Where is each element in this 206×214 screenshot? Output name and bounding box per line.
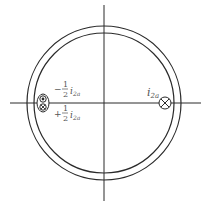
svg-text:1: 1 — [63, 80, 68, 89]
svg-text:−: − — [54, 84, 62, 94]
svg-text:1: 1 — [63, 104, 68, 113]
svg-text:i2a: i2a — [70, 86, 81, 97]
label-right-var: i2a — [147, 86, 159, 100]
svg-text:2: 2 — [63, 114, 68, 123]
diagram-canvas: i2a − 1 2 i2a + 1 2 i2a — [0, 0, 206, 214]
svg-text:i2a: i2a — [70, 110, 81, 121]
svg-text:+: + — [54, 109, 62, 119]
label-left-bottom: + 1 2 i2a — [54, 104, 81, 123]
conductor-cross-icon-left — [40, 104, 46, 110]
svg-text:2: 2 — [63, 90, 68, 99]
conductor-dot-icon — [40, 96, 46, 102]
conductor-pair-left — [37, 94, 49, 112]
label-left-top: − 1 2 i2a — [54, 80, 81, 99]
conductor-cross-icon-right — [159, 97, 171, 109]
